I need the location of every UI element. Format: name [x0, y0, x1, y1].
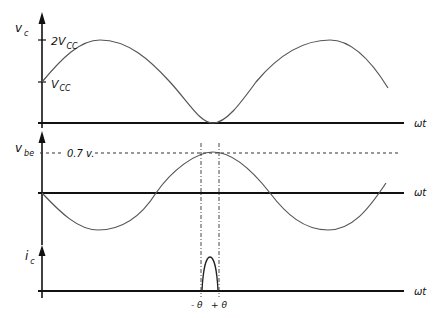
panel-vbe: vbe 0.7 v. ωt: [15, 131, 427, 245]
vc-tick-label-vcc: VCC: [51, 78, 71, 93]
vbe-ylabel: vbe: [15, 141, 34, 158]
vc-ylabel: vc: [15, 21, 29, 38]
waveform-diagram: vc 2VCC VCC ωt vbe 0.7 v. ωt ic - θ + θ …: [0, 0, 442, 318]
panel-vc: vc 2VCC VCC ωt: [15, 12, 427, 129]
vc-waveform: [42, 40, 388, 123]
vc-axis-arrow-icon: [39, 12, 46, 24]
ic-axis-arrow-icon: [39, 245, 46, 256]
ic-pulse: [202, 257, 218, 291]
vbe-axis-arrow-icon: [39, 131, 46, 143]
vbe-xlabel: ωt: [414, 187, 427, 198]
vc-xlabel: ωt: [414, 118, 427, 129]
label-plus-theta: + θ: [211, 300, 227, 310]
vc-tick-label-2vcc: 2VCC: [51, 35, 78, 51]
ic-ylabel: ic: [25, 249, 35, 266]
ic-xlabel: ωt: [414, 286, 427, 297]
panel-ic: ic - θ + θ ωt: [25, 245, 427, 310]
vbe-threshold-label: 0.7 v.: [67, 148, 94, 159]
vbe-waveform: [42, 152, 386, 230]
label-minus-theta: - θ: [191, 300, 203, 310]
